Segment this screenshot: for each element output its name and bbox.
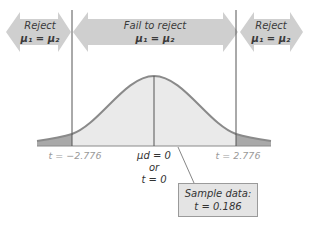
center-region-line1: Fail to reject [100,19,210,32]
left-region-label: Reject μ₁ = μ₂ [14,19,66,45]
left-region-line2: μ₁ = μ₂ [14,32,66,45]
left-region-line1: Reject [14,19,66,32]
center-region-label: Fail to reject μ₁ = μ₂ [100,19,210,45]
sample-data-box: Sample data: t = 0.186 [178,183,258,217]
sample-box-line1: Sample data: [179,187,257,200]
center-axis-line2: or [124,162,184,174]
right-region-line2: μ₁ = μ₂ [244,32,298,45]
right-region-line1: Reject [244,19,298,32]
sample-box-line2: t = 0.186 [179,200,257,213]
left-critical-label: t = −2.776 [40,150,110,161]
right-region-label: Reject μ₁ = μ₂ [244,19,298,45]
right-critical-label: t = 2.776 [208,150,268,161]
center-axis-line1: μd = 0 [124,150,184,162]
center-axis-line3: t = 0 [124,174,184,186]
center-axis-label: μd = 0 or t = 0 [124,150,184,186]
center-region-line2: μ₁ = μ₂ [100,32,210,45]
